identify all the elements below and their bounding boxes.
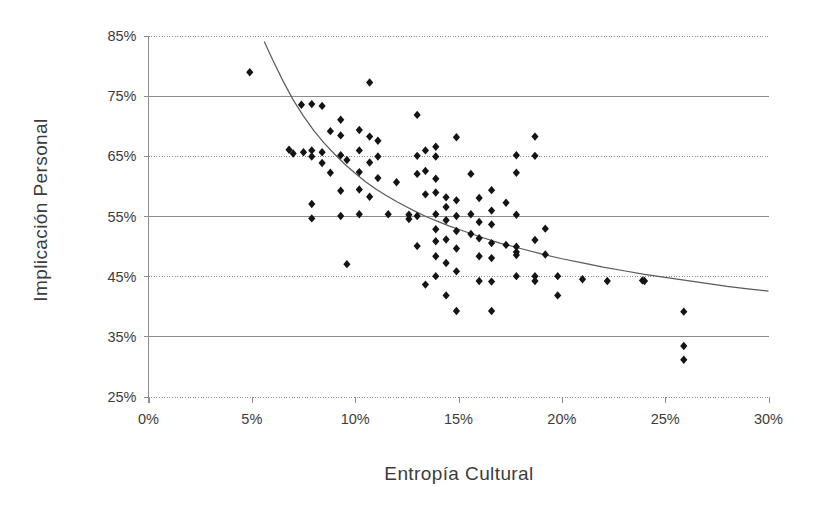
x-tick-labels: 0%5%10%15%20%25%30% [138, 411, 783, 427]
data-point [502, 241, 509, 249]
data-point [680, 356, 687, 364]
x-tick-label-25: 25% [651, 411, 680, 427]
data-point [513, 151, 520, 159]
data-point [488, 254, 495, 262]
data-point [453, 267, 460, 275]
y-tick-label-25: 25% [107, 389, 136, 405]
data-point [680, 342, 687, 350]
data-point [531, 236, 538, 244]
data-point [513, 272, 520, 280]
data-point [432, 174, 439, 182]
data-point [542, 224, 549, 232]
data-point [298, 100, 305, 108]
data-point [422, 280, 429, 288]
data-point [488, 206, 495, 214]
data-point [513, 168, 520, 176]
data-point [337, 131, 344, 139]
data-point [453, 196, 460, 204]
data-point [476, 277, 483, 285]
data-point [513, 211, 520, 219]
data-point [432, 237, 439, 245]
data-point [337, 116, 344, 124]
x-tick-label-30: 30% [754, 411, 783, 427]
data-point [308, 200, 315, 208]
data-point [432, 272, 439, 280]
data-point [604, 277, 611, 285]
y-tick-label-35: 35% [107, 329, 136, 345]
data-point [374, 152, 381, 160]
data-point [246, 68, 253, 76]
data-point [356, 185, 363, 193]
y-tick-label-45: 45% [107, 269, 136, 285]
data-point [422, 167, 429, 175]
data-point [488, 277, 495, 285]
data-point [366, 193, 373, 201]
data-point [300, 148, 307, 156]
data-point [432, 152, 439, 160]
scatter-chart: Implicación Personal Entropía Cultural 2… [0, 0, 818, 519]
y-tick-label-75: 75% [107, 88, 136, 104]
data-point [343, 260, 350, 268]
data-point [337, 212, 344, 220]
data-point [414, 242, 421, 250]
data-point [319, 102, 326, 110]
data-point [414, 170, 421, 178]
data-point [467, 210, 474, 218]
data-point [319, 159, 326, 167]
data-point [467, 170, 474, 178]
data-point [476, 218, 483, 226]
data-point [453, 244, 460, 252]
data-point [453, 307, 460, 315]
data-point [414, 111, 421, 119]
y-tick-label-55: 55% [107, 209, 136, 225]
data-point [432, 188, 439, 196]
data-point [374, 174, 381, 182]
x-tick-label-20: 20% [547, 411, 576, 427]
data-point [356, 126, 363, 134]
plot-area: 25%35%45%55%65%75%85% 0%5%10%15%20%25%30… [0, 0, 818, 519]
data-point [488, 220, 495, 228]
data-point [453, 133, 460, 141]
data-point [542, 250, 549, 258]
data-point [432, 210, 439, 218]
data-point [337, 187, 344, 195]
data-point [443, 291, 450, 299]
data-point [366, 132, 373, 140]
data-point [356, 146, 363, 154]
data-point [366, 158, 373, 166]
data-point [432, 225, 439, 233]
data-point [554, 291, 561, 299]
data-point [467, 230, 474, 238]
data-point [680, 307, 687, 315]
data-point [554, 272, 561, 280]
data-point [422, 146, 429, 154]
data-point [356, 210, 363, 218]
data-point [374, 137, 381, 145]
data-point [308, 152, 315, 160]
data-point [443, 235, 450, 243]
data-point [579, 275, 586, 283]
x-tick-label-10: 10% [341, 411, 370, 427]
data-point [366, 78, 373, 86]
y-tick-labels: 25%35%45%55%65%75%85% [107, 28, 136, 405]
data-point [319, 148, 326, 156]
data-point [327, 168, 334, 176]
data-point [502, 199, 509, 207]
data-point [531, 277, 538, 285]
data-point [531, 152, 538, 160]
data-point [531, 132, 538, 140]
x-tick-label-5: 5% [241, 411, 262, 427]
data-point [443, 193, 450, 201]
data-point [393, 178, 400, 186]
y-tick-label-85: 85% [107, 28, 136, 44]
data-point [488, 186, 495, 194]
data-point [432, 252, 439, 260]
data-point [476, 252, 483, 260]
data-point [488, 307, 495, 315]
x-tick-label-0: 0% [138, 411, 159, 427]
x-tick-label-15: 15% [444, 411, 473, 427]
y-tick-label-65: 65% [107, 148, 136, 164]
data-point [476, 194, 483, 202]
data-point [443, 203, 450, 211]
data-point [414, 152, 421, 160]
